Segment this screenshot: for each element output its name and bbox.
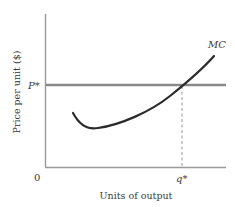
mc-label: MC	[207, 39, 226, 50]
p-star-label: P*	[27, 80, 40, 91]
q-star-label: q*	[176, 173, 187, 184]
mc-curve	[73, 56, 214, 128]
origin-label: 0	[34, 172, 40, 183]
x-axis-label: Units of output	[100, 190, 173, 201]
y-axis-label: Price per unit ($)	[11, 51, 22, 134]
chart: MC P* q* 0 Units of output Price per uni…	[0, 0, 235, 207]
